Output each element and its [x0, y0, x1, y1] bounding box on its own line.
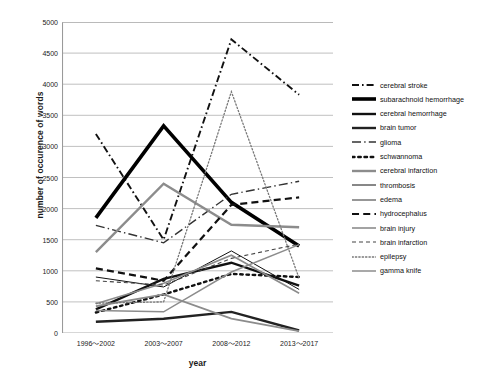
legend-item-7[interactable]: thrombosis	[352, 178, 478, 192]
legend-label: brain tumor	[380, 124, 416, 131]
series-canvas	[62, 22, 333, 333]
legend-swatch-icon	[352, 137, 376, 147]
plot-area	[62, 22, 333, 333]
chart-legend: cerebral strokesubarachnoid hemorrhagece…	[352, 78, 478, 278]
legend-item-13[interactable]: gamma knife	[352, 264, 478, 278]
legend-item-12[interactable]: epilepsy	[352, 250, 478, 264]
legend-swatch-icon	[352, 152, 376, 162]
series-line-0	[96, 39, 299, 239]
legend-item-9[interactable]: hydrocephalus	[352, 207, 478, 221]
legend-swatch-icon	[352, 123, 376, 133]
legend-label: gamma knife	[380, 267, 421, 274]
legend-item-11[interactable]: brain infarction	[352, 235, 478, 249]
legend-label: cerebral infarction	[380, 167, 437, 174]
x-tick-0: 1996〜2002	[77, 338, 115, 348]
x-tick-3: 2013〜2017	[280, 338, 318, 348]
series-line-8	[96, 294, 299, 331]
x-tick-1: 2003〜2007	[145, 338, 183, 348]
legend-item-4[interactable]: glioma	[352, 135, 478, 149]
legend-swatch-icon	[352, 80, 376, 90]
legend-label: edema	[380, 196, 402, 203]
series-line-3	[96, 312, 299, 331]
y-tick-5000: 5000	[24, 19, 58, 26]
legend-item-1[interactable]: subarachnoid hemorrhage	[352, 92, 478, 106]
legend-item-10[interactable]: brain injury	[352, 221, 478, 235]
legend-label: hydrocephalus	[380, 210, 427, 217]
legend-item-2[interactable]: cerebral hemorrhage	[352, 107, 478, 121]
legend-label: schwannoma	[380, 153, 422, 160]
legend-item-3[interactable]: brain tumor	[352, 121, 478, 135]
y-tick-500: 500	[24, 298, 58, 305]
y-tick-3500: 3500	[24, 112, 58, 119]
chart-figure: number of occurence of words 50004500400…	[0, 0, 479, 374]
series-line-1	[96, 126, 299, 246]
y-tick-0: 0	[24, 330, 58, 337]
legend-swatch-icon	[352, 166, 376, 176]
y-tick-1500: 1500	[24, 236, 58, 243]
series-line-11	[96, 244, 299, 285]
x-axis-title: year	[62, 358, 333, 368]
legend-label: brain injury	[380, 225, 415, 232]
legend-label: cerebral hemorrhage	[380, 110, 447, 117]
series-line-4	[96, 181, 299, 243]
y-tick-1000: 1000	[24, 267, 58, 274]
legend-swatch-icon	[352, 252, 376, 262]
legend-label: epilepsy	[380, 253, 406, 260]
legend-swatch-icon	[352, 266, 376, 276]
y-axis-tick-labels: 5000450040003500300025002000150010005000	[20, 0, 58, 374]
y-tick-4000: 4000	[24, 81, 58, 88]
x-tick-2: 2008〜2012	[212, 338, 250, 348]
legend-label: glioma	[380, 139, 401, 146]
legend-swatch-icon	[352, 94, 376, 104]
legend-swatch-icon	[352, 209, 376, 219]
legend-item-0[interactable]: cerebral stroke	[352, 78, 478, 92]
legend-item-6[interactable]: cerebral infarction	[352, 164, 478, 178]
legend-swatch-icon	[352, 223, 376, 233]
series-line-9	[96, 197, 299, 280]
legend-swatch-icon	[352, 237, 376, 247]
legend-label: thrombosis	[380, 182, 415, 189]
legend-swatch-icon	[352, 180, 376, 190]
legend-label: cerebral stroke	[380, 82, 428, 89]
legend-swatch-icon	[352, 109, 376, 119]
legend-label: subarachnoid hemorrhage	[380, 96, 464, 103]
legend-item-5[interactable]: schwannoma	[352, 149, 478, 163]
legend-item-8[interactable]: edema	[352, 192, 478, 206]
y-tick-3000: 3000	[24, 143, 58, 150]
legend-swatch-icon	[352, 195, 376, 205]
y-tick-2000: 2000	[24, 205, 58, 212]
y-tick-4500: 4500	[24, 50, 58, 57]
y-tick-2500: 2500	[24, 174, 58, 181]
legend-label: brain infarction	[380, 239, 427, 246]
